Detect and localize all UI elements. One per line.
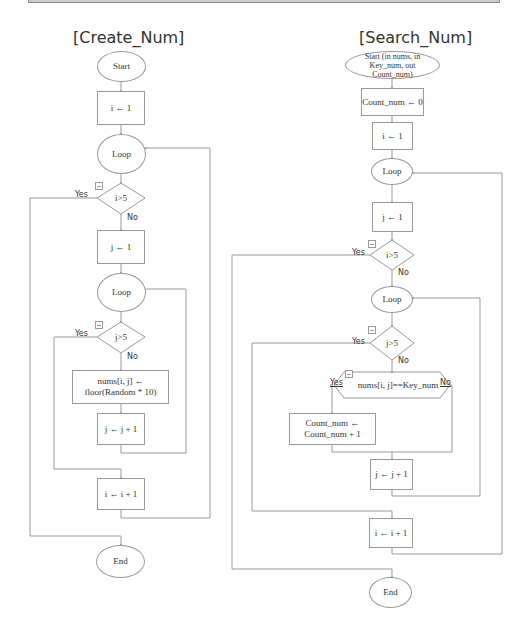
create-start-terminal: Start (97, 51, 146, 82)
search-start-terminal: Start (in nums, in Key_num, out Count_nu… (345, 51, 440, 79)
collapse-icon[interactable] (95, 182, 103, 190)
collapse-icon[interactable] (368, 240, 376, 248)
search-cond-key-text: nums[i, j]==Key_num (350, 380, 446, 390)
create-num-title: [Create_Num] (73, 28, 184, 47)
create-cond-j-text: j>5 (105, 332, 137, 342)
collapse-icon[interactable] (95, 321, 103, 329)
search-inc-j-process: j ← j + 1 (370, 459, 413, 490)
search-cond-i-yes: Yes (352, 248, 365, 257)
create-cond-i-text: i>5 (105, 193, 137, 203)
search-outer-loop: Loop (371, 158, 413, 185)
create-assign-process: nums[i, j] ← floor(Random * 10) (72, 370, 169, 404)
search-cond-j-text: j>5 (377, 338, 407, 348)
create-init-i-process: i ← 1 (97, 91, 145, 125)
create-outer-loop: Loop (97, 134, 146, 174)
search-cond-i-no: No (398, 268, 409, 277)
create-init-j-process: j ← 1 (97, 230, 145, 264)
create-inc-j-process: j ← j + 1 (97, 413, 145, 445)
create-cond-j-yes: Yes (75, 329, 88, 338)
search-inc-count-process: Count_num ← Count_num + 1 (289, 413, 376, 445)
collapse-icon[interactable] (345, 370, 353, 378)
search-cond-key-no: No (440, 378, 451, 387)
create-cond-i-no: No (127, 213, 138, 222)
search-inc-i-process: i ← i + 1 (369, 518, 413, 548)
search-init-count-process: Count_num ← 0 (361, 88, 424, 116)
connector-lines (0, 0, 530, 642)
search-cond-key-yes: Yes (330, 378, 343, 387)
create-end-terminal: End (96, 545, 145, 578)
create-inc-i-process: i ← i + 1 (97, 478, 145, 510)
search-end-terminal: End (369, 577, 412, 608)
create-cond-j-no: No (127, 352, 138, 361)
search-num-title: [Search_Num] (359, 28, 472, 47)
create-inner-loop: Loop (97, 273, 146, 312)
search-cond-j-no: No (398, 356, 409, 365)
search-init-j-process: j ← 1 (372, 202, 413, 232)
search-init-i-process: i ← 1 (372, 122, 413, 150)
collapse-icon[interactable] (368, 326, 376, 334)
create-cond-i-yes: Yes (75, 190, 88, 199)
search-cond-j-yes: Yes (352, 337, 365, 346)
search-inner-loop: Loop (371, 286, 413, 313)
search-cond-i-text: i>5 (377, 250, 407, 260)
